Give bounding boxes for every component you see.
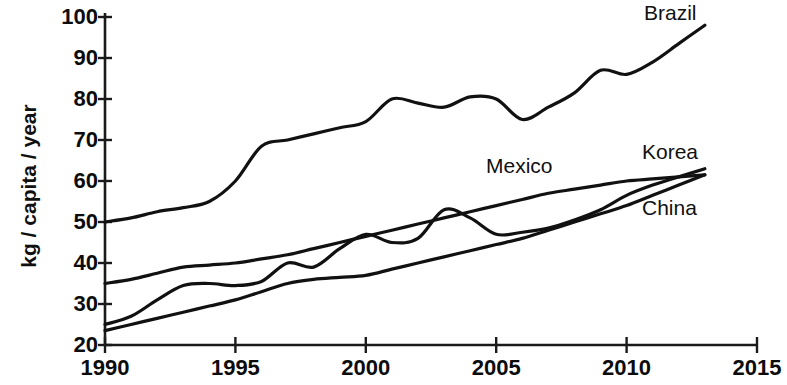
plot-area <box>0 0 787 385</box>
series-label-mexico: Mexico <box>486 155 553 176</box>
series-line-china <box>105 175 705 331</box>
series-label-korea: Korea <box>642 141 698 162</box>
axis-ticks <box>98 17 757 353</box>
data-series-lines <box>105 25 705 330</box>
series-line-korea <box>105 169 705 325</box>
chart-container: kg / capita / year 2030405060708090100 1… <box>0 0 787 385</box>
series-label-china: China <box>642 197 697 218</box>
series-line-brazil <box>105 25 705 222</box>
series-label-brazil: Brazil <box>644 2 697 23</box>
